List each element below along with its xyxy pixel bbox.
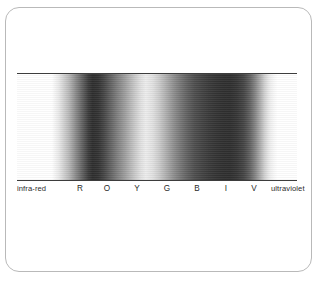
label-band-v: V	[251, 183, 257, 194]
plate-bottom-rule	[17, 180, 297, 181]
label-band-o: O	[104, 183, 110, 194]
spectrum-gradient-band	[17, 74, 297, 180]
label-ultraviolet: ultraviolet	[271, 183, 305, 194]
label-band-b: B	[194, 183, 200, 194]
label-band-i: I	[225, 183, 227, 194]
spectrum-label-row: infra-red R O Y G B I V ultraviolet	[17, 183, 297, 196]
label-band-g: G	[164, 183, 170, 194]
label-infra-red: infra-red	[17, 183, 46, 194]
spectrum-plate	[17, 73, 297, 181]
spectrum-figure: infra-red R O Y G B I V ultraviolet	[0, 0, 323, 282]
label-band-r: R	[77, 183, 83, 194]
label-band-y: Y	[134, 183, 140, 194]
